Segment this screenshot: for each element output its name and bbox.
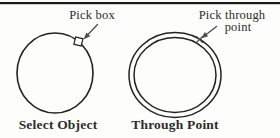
callout-arrows [88,25,217,43]
pick-through-point-label-line2: point [225,20,252,34]
through-point-inner-circle [134,38,216,113]
figure-diagram: Pick box Pick through point Select Objec… [0,0,280,138]
pick-box-marker-icon [74,37,83,46]
top-rule-divider [0,2,280,4]
pick-box-label: Pick box [69,8,115,22]
select-object-caption: Select Object [19,117,98,132]
callout-arrowheads [84,32,209,39]
through-point-outer-circle [129,33,221,118]
through-point-caption: Through Point [131,117,219,132]
pick-box-arrow-line [88,25,98,36]
diagram-canvas: Pick box Pick through point Select Objec… [0,0,280,138]
through-point-arrow-line [206,27,217,36]
line-work [17,33,221,118]
